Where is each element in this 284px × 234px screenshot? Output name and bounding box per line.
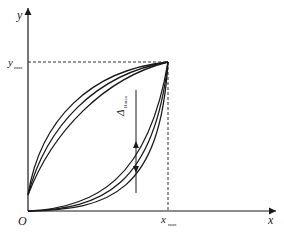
svg-text:Hmax: Hmax bbox=[123, 95, 128, 108]
x-axis-label: x bbox=[267, 213, 274, 227]
delta-h-max-label: Δ Hmax bbox=[114, 95, 128, 117]
delta-arrow-up bbox=[133, 141, 139, 148]
upper-curves bbox=[28, 62, 168, 195]
y-max-label: y max bbox=[7, 56, 23, 70]
x-max-label: x max bbox=[160, 213, 177, 227]
hysteresis-diagram: y x O y max x max Δ Hmax bbox=[0, 0, 284, 234]
y-axis-label: y bbox=[16, 8, 23, 22]
svg-text:x: x bbox=[160, 213, 166, 225]
svg-text:max: max bbox=[168, 222, 177, 227]
svg-text:y: y bbox=[7, 56, 13, 68]
svg-text:Δ: Δ bbox=[114, 110, 126, 117]
origin-label: O bbox=[18, 214, 27, 228]
svg-text:max: max bbox=[14, 65, 23, 70]
